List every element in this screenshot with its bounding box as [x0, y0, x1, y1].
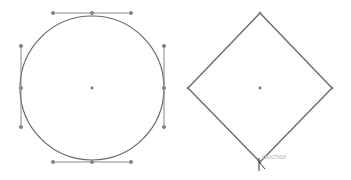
anchor-point-right[interactable] [331, 87, 334, 90]
circle-right-handle[interactable] [162, 44, 165, 128]
canvas[interactable] [0, 0, 351, 180]
diamond-shape[interactable] [187, 12, 334, 164]
anchor-point-left[interactable] [187, 87, 190, 90]
circle-top-handle[interactable] [51, 11, 132, 14]
anchor-hover-label: anchor [262, 152, 286, 161]
circle-center-point [91, 87, 94, 90]
anchor-point-top[interactable] [259, 12, 262, 15]
circle-shape[interactable] [19, 11, 165, 163]
diamond-center-point [259, 87, 262, 90]
circle-left-handle[interactable] [19, 44, 22, 128]
circle-bottom-handle[interactable] [51, 160, 132, 163]
